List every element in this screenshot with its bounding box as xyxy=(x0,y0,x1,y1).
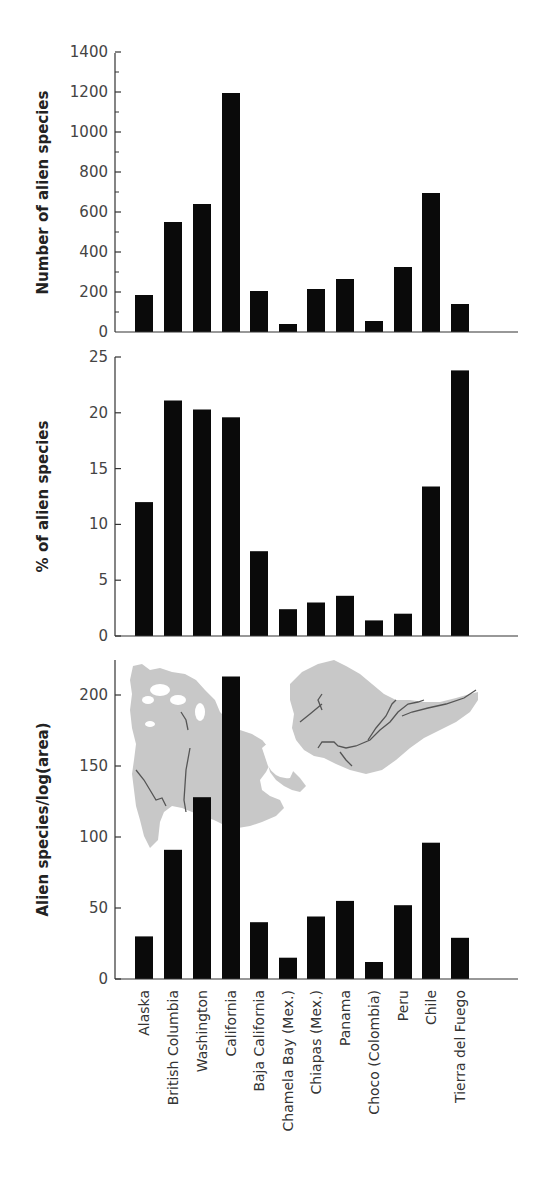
y-tick-label: 200 xyxy=(79,686,108,704)
category-label: Baja California xyxy=(251,990,267,1092)
category-label: British Columbia xyxy=(165,990,181,1105)
y-tick-label: 200 xyxy=(79,283,108,301)
y-tick-label: 100 xyxy=(79,828,108,846)
map-lake xyxy=(150,684,170,696)
bar-british-columbia xyxy=(164,401,182,637)
bar-california xyxy=(222,93,240,332)
category-label: Chile xyxy=(423,990,439,1025)
americas-map-inset xyxy=(130,660,478,848)
bar-alaska xyxy=(135,502,153,636)
bar-tierra-del-fuego xyxy=(451,938,469,979)
y-tick-label: 400 xyxy=(79,243,108,261)
bar-chile xyxy=(422,193,440,332)
map-lake xyxy=(142,696,154,704)
y-tick-label: 150 xyxy=(79,757,108,775)
category-label: Alaska xyxy=(136,990,152,1036)
y-axis-title: Alien species/log(area) xyxy=(34,722,52,916)
map-lake xyxy=(170,695,186,705)
y-tick-label: 1400 xyxy=(70,43,108,61)
y-tick-label: 1200 xyxy=(70,83,108,101)
bar-baja-california xyxy=(250,551,268,636)
category-labels: AlaskaBritish ColumbiaWashingtonCaliforn… xyxy=(136,990,468,1131)
category-label: Tierra del Fuego xyxy=(452,990,468,1104)
bar-chile xyxy=(422,487,440,637)
category-label: Panama xyxy=(337,990,353,1046)
bar-chiapas-mex xyxy=(307,917,325,980)
bar-choco-colombia xyxy=(365,620,383,636)
bar-peru xyxy=(394,267,412,332)
bar-chile xyxy=(422,843,440,979)
y-tick-label: 20 xyxy=(89,404,108,422)
map-gulf xyxy=(262,736,297,778)
y-axis-title: % of alien species xyxy=(34,421,52,573)
bar-california xyxy=(222,417,240,636)
bar-british-columbia xyxy=(164,850,182,979)
category-label: Chamela Bay (Mex.) xyxy=(280,990,296,1131)
y-tick-label: 1000 xyxy=(70,123,108,141)
bar-choco-colombia xyxy=(365,962,383,979)
y-tick-label: 0 xyxy=(98,323,108,341)
bar-chamela-bay-mex xyxy=(279,324,297,332)
map-lake xyxy=(195,703,205,721)
map-lake xyxy=(145,721,155,727)
bar-washington xyxy=(193,410,211,637)
y-tick-label: 10 xyxy=(89,515,108,533)
bar-baja-california xyxy=(250,291,268,332)
bar-baja-california xyxy=(250,922,268,979)
y-tick-label: 25 xyxy=(89,348,108,366)
bar-peru xyxy=(394,905,412,979)
y-tick-label: 0 xyxy=(98,627,108,645)
category-label: Peru xyxy=(395,990,411,1021)
bar-panama xyxy=(336,596,354,636)
y-tick-label: 50 xyxy=(89,899,108,917)
bar-panama xyxy=(336,279,354,332)
bar-tierra-del-fuego xyxy=(451,304,469,332)
y-axis-title: Number of alien species xyxy=(34,90,52,294)
bar-chiapas-mex xyxy=(307,289,325,332)
bar-washington xyxy=(193,204,211,332)
y-tick-label: 5 xyxy=(98,571,108,589)
bar-panama xyxy=(336,901,354,979)
alien-species-figure: 0200400600800100012001400Number of alien… xyxy=(0,0,549,1185)
bar-peru xyxy=(394,614,412,636)
bar-chamela-bay-mex xyxy=(279,958,297,979)
category-label: California xyxy=(223,990,239,1056)
bar-chiapas-mex xyxy=(307,603,325,637)
y-tick-label: 600 xyxy=(79,203,108,221)
y-tick-label: 0 xyxy=(98,970,108,988)
bar-chamela-bay-mex xyxy=(279,609,297,636)
bar-alaska xyxy=(135,295,153,332)
category-label: Washington xyxy=(194,990,210,1072)
chart-panel-1: 0200400600800100012001400Number of alien… xyxy=(34,43,518,341)
map-landmass xyxy=(290,660,478,774)
y-tick-label: 800 xyxy=(79,163,108,181)
category-label: Choco (Colombia) xyxy=(366,990,382,1115)
category-label: Chiapas (Mex.) xyxy=(308,990,324,1094)
y-tick-label: 15 xyxy=(89,460,108,478)
bar-alaska xyxy=(135,936,153,979)
bar-california xyxy=(222,677,240,980)
bar-choco-colombia xyxy=(365,321,383,332)
bar-tierra-del-fuego xyxy=(451,370,469,636)
chart-panel-2: 0510152025% of alien species xyxy=(34,348,518,645)
bar-washington xyxy=(193,797,211,979)
bar-british-columbia xyxy=(164,222,182,332)
